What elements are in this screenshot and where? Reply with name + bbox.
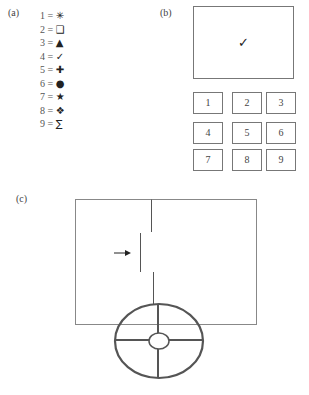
circuit-loop <box>76 200 257 325</box>
wheel-icon[interactable] <box>115 304 203 378</box>
arrow-icon <box>114 250 131 256</box>
circuit-diagram <box>0 0 309 395</box>
